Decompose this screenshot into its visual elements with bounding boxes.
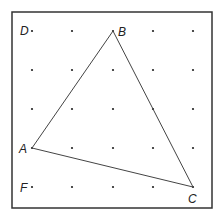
point-labels: D B A F C [18,24,197,206]
grid-dot [152,30,154,32]
grid-dot [192,30,194,32]
grid-dot [192,69,194,71]
label-c: C [188,192,197,206]
grid-dot [71,30,73,32]
grid-dot [112,147,114,149]
grid-dot [152,147,154,149]
grid-dot [112,69,114,71]
grid-dots [31,30,194,188]
geoboard-diagram: D B A F C [0,0,222,217]
label-b: B [118,25,126,39]
label-a: A [18,142,27,156]
grid-dot [112,186,114,188]
grid-dot [31,30,33,32]
grid-dot [152,186,154,188]
grid-dot [71,69,73,71]
grid-dot [112,108,114,110]
grid-dot [192,108,194,110]
grid-dot [71,186,73,188]
grid-dot [31,186,33,188]
grid-dot [31,69,33,71]
grid-dot [71,108,73,110]
frame [12,12,212,208]
label-f: F [20,181,28,195]
grid-dot [192,147,194,149]
grid-dot [31,108,33,110]
grid-dot [71,147,73,149]
grid-dot [152,69,154,71]
label-d: D [20,24,29,38]
